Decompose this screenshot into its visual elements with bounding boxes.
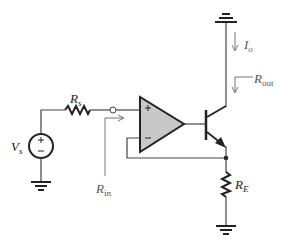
rin-label: Rin — [96, 182, 111, 198]
ground-symbol-re — [216, 226, 236, 234]
ground-symbol-top — [215, 14, 237, 22]
rout-arrow-icon — [232, 77, 253, 93]
opamp-triangle — [140, 97, 184, 152]
input-wire — [41, 110, 65, 134]
io-label: Io — [244, 38, 253, 54]
re-label: RE — [235, 178, 248, 194]
current-arrow-icon — [232, 32, 238, 51]
rout-label: Rout — [254, 72, 273, 88]
re-resistor — [222, 172, 230, 197]
rin-arrow-icon — [105, 115, 124, 176]
npn-transistor — [206, 106, 226, 158]
rs-label: Rs — [70, 92, 81, 108]
input-terminal — [110, 107, 116, 113]
ground-symbol-source — [31, 182, 51, 190]
vs-label: Vs — [11, 140, 22, 156]
circuit-diagram: Rs Vs Rin Io Rout RE — [0, 0, 292, 246]
